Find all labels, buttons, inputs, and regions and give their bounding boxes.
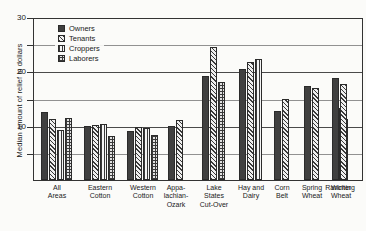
bar-owners <box>127 131 134 180</box>
bar-tenants <box>340 84 347 180</box>
bar-tenants <box>247 62 254 180</box>
x-tick-label-line: Wheat <box>321 192 361 200</box>
bar-croppers <box>100 124 107 180</box>
legend-item-croppers: Croppers <box>58 44 100 53</box>
legend-swatch-owners <box>58 25 65 32</box>
x-tick-label-line: Appa- <box>156 184 196 192</box>
bar-croppers <box>57 130 64 180</box>
bar-owners <box>41 112 48 180</box>
x-tick-label-line: Ranching <box>320 184 360 192</box>
x-axis-labels: AllAreasEasternCottonWesternCottonAppa-l… <box>33 184 363 230</box>
bar-group <box>274 19 290 180</box>
x-tick-label-line: Cotton <box>80 192 120 200</box>
x-tick-label-line: Lake <box>194 184 234 192</box>
x-tick-label: AllAreas <box>37 184 77 201</box>
bar-tenants <box>282 99 289 180</box>
legend-label-tenants: Tenants <box>69 34 95 43</box>
legend-label-owners: Owners <box>69 24 95 33</box>
bar-group <box>239 19 263 180</box>
bar-owners <box>304 86 311 180</box>
x-tick-label-line: All <box>37 184 77 192</box>
x-tick-label-line: lachian- <box>156 192 196 200</box>
bar-owners <box>202 76 209 180</box>
x-tick-label-line: Areas <box>37 192 77 200</box>
bar-owners <box>239 69 246 180</box>
legend-swatch-tenants <box>58 35 65 42</box>
bar-croppers <box>143 128 150 180</box>
bar-tenants <box>49 119 56 180</box>
bar-tenants <box>210 47 217 180</box>
bar-tenants <box>135 127 142 180</box>
bar-owners <box>332 78 339 180</box>
bar-laborers <box>218 82 225 180</box>
legend-label-croppers: Croppers <box>69 44 100 53</box>
bar-group <box>127 19 159 180</box>
bar-owners <box>274 111 281 180</box>
bar-laborers <box>151 135 158 180</box>
x-tick-label-line: Ozark <box>156 201 196 209</box>
bar-owners <box>168 126 175 180</box>
bar-tenants <box>312 88 319 180</box>
bar-tenants <box>92 125 99 180</box>
x-tick-label-line: Eastern <box>80 184 120 192</box>
x-tick-label: EasternCotton <box>80 184 120 201</box>
bar-group <box>304 19 320 180</box>
legend-label-laborers: Laborers <box>69 54 99 63</box>
bar-croppers <box>255 59 262 180</box>
y-tick-label-20: 20 <box>0 67 26 76</box>
chart-legend: Owners Tenants Croppers Laborers <box>55 22 104 65</box>
x-tick-label: Ranching <box>320 184 360 192</box>
x-tick-label-line: Cut-Over <box>194 201 234 209</box>
bar-group <box>332 19 348 180</box>
y-axis-label: Median amount of relief in dollars <box>15 26 24 176</box>
x-tick-label: LakeStatesCut-Over <box>194 184 234 209</box>
legend-swatch-croppers <box>58 45 65 52</box>
bar-chart: Median amount of relief in dollars 30 20… <box>0 0 366 231</box>
bar-owners <box>84 126 91 180</box>
bar-tenants <box>176 120 183 180</box>
legend-swatch-laborers <box>58 55 65 62</box>
bar-group <box>168 19 184 180</box>
bar-group <box>202 19 226 180</box>
x-tick-label-line: States <box>194 192 234 200</box>
legend-item-owners: Owners <box>58 24 100 33</box>
legend-item-laborers: Laborers <box>58 54 100 63</box>
y-tick-label-10: 10 <box>0 122 26 131</box>
bar-laborers <box>108 136 115 180</box>
legend-item-tenants: Tenants <box>58 34 100 43</box>
y-tick-label-30: 30 <box>0 13 26 22</box>
x-tick-label: Appa-lachian-Ozark <box>156 184 196 209</box>
bar-laborers <box>65 118 72 180</box>
